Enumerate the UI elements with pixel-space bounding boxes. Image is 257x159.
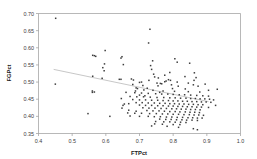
- data-point: [205, 101, 207, 103]
- data-point: [146, 110, 148, 112]
- data-point: [156, 97, 158, 99]
- data-point: [172, 114, 174, 116]
- data-point: [143, 96, 145, 98]
- data-point: [201, 101, 203, 103]
- data-point: [190, 98, 192, 100]
- data-point: [176, 81, 178, 83]
- data-point: [139, 99, 141, 101]
- data-point: [134, 113, 136, 115]
- data-point: [196, 106, 198, 108]
- data-point: [169, 97, 171, 99]
- data-point: [184, 76, 186, 78]
- data-point: [193, 84, 195, 86]
- y-tick-label: 0.35: [24, 131, 35, 137]
- data-point: [202, 95, 204, 97]
- data-point: [135, 102, 137, 104]
- data-point: [189, 62, 191, 64]
- data-point: [148, 93, 150, 95]
- data-point: [174, 111, 176, 113]
- data-point: [188, 91, 190, 93]
- data-point: [148, 107, 150, 109]
- data-point: [188, 104, 190, 106]
- data-point: [191, 106, 193, 108]
- data-point: [176, 61, 178, 63]
- data-point: [160, 116, 162, 118]
- data-point: [135, 110, 137, 112]
- data-point: [92, 75, 94, 77]
- data-point: [134, 92, 136, 94]
- data-point: [169, 103, 171, 105]
- data-point: [148, 42, 150, 44]
- data-point: [163, 121, 165, 123]
- data-point: [151, 69, 153, 71]
- data-point: [135, 87, 137, 89]
- data-point: [172, 100, 174, 102]
- data-point: [180, 108, 182, 110]
- data-point: [197, 104, 199, 106]
- y-tick-label: 0.65: [24, 28, 35, 34]
- scatter-chart: 0.40.50.60.70.80.91.0 0.350.400.450.500.…: [0, 0, 257, 159]
- data-point: [186, 119, 188, 121]
- data-point: [187, 117, 189, 119]
- data-point: [145, 99, 147, 101]
- data-point: [162, 90, 164, 92]
- data-point: [162, 123, 164, 125]
- data-point: [139, 116, 141, 118]
- data-point: [179, 124, 181, 126]
- data-point: [159, 103, 161, 105]
- data-point: [201, 117, 203, 119]
- data-point: [55, 18, 57, 20]
- data-point: [182, 101, 184, 103]
- data-point: [194, 111, 196, 113]
- data-point: [176, 119, 178, 121]
- x-axis-title: FTPct: [131, 150, 147, 156]
- y-axis-ticks: 0.350.400.450.500.550.600.650.70: [24, 11, 39, 137]
- data-point: [196, 101, 198, 103]
- data-point: [209, 98, 211, 100]
- data-point: [149, 29, 151, 31]
- data-point: [170, 119, 172, 121]
- data-point: [152, 60, 154, 62]
- data-point: [177, 100, 179, 102]
- data-point: [161, 93, 163, 95]
- data-point: [197, 120, 199, 122]
- data-point: [119, 79, 121, 81]
- data-point: [142, 85, 144, 87]
- data-point: [121, 107, 123, 109]
- y-tick-label: 0.70: [24, 11, 35, 17]
- data-point: [92, 90, 94, 92]
- data-point: [195, 98, 197, 100]
- data-point: [193, 128, 195, 130]
- data-point: [132, 84, 134, 86]
- data-point: [143, 89, 145, 91]
- data-point: [208, 95, 210, 97]
- data-point: [183, 114, 185, 116]
- data-point: [159, 118, 161, 120]
- data-point: [148, 116, 150, 118]
- data-point: [139, 82, 141, 84]
- data-point: [151, 99, 153, 101]
- data-point: [151, 125, 153, 127]
- data-point: [174, 121, 176, 123]
- data-point: [197, 117, 199, 119]
- data-point: [154, 76, 156, 78]
- data-point: [185, 122, 187, 124]
- data-point: [202, 104, 204, 106]
- data-point: [157, 105, 159, 107]
- data-point: [137, 88, 139, 90]
- data-point: [160, 83, 162, 85]
- data-point: [150, 65, 152, 67]
- data-point: [208, 90, 210, 92]
- data-point: [172, 105, 174, 107]
- data-point: [174, 97, 176, 99]
- data-point: [154, 102, 156, 104]
- data-point: [169, 121, 171, 123]
- data-point: [155, 121, 157, 123]
- data-point: [165, 119, 167, 121]
- trend-line: [54, 69, 209, 101]
- data-point: [124, 103, 126, 105]
- data-point: [123, 64, 125, 65]
- data-point: [163, 97, 165, 99]
- data-point: [181, 119, 183, 121]
- data-point: [145, 105, 147, 107]
